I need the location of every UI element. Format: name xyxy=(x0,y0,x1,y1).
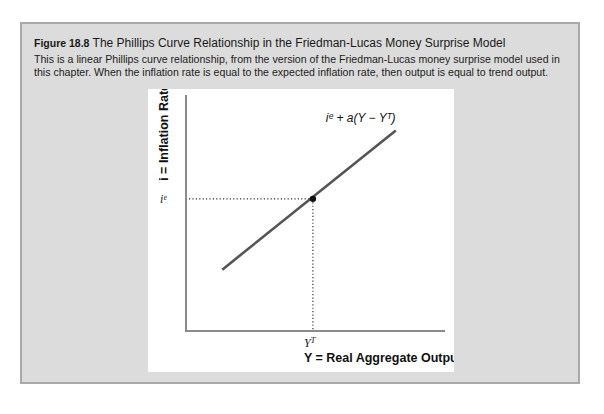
y-tick-label: iᵉ xyxy=(160,192,167,206)
x-axis-label: Y = Real Aggregate Output xyxy=(304,351,454,365)
figure-number: Figure 18.8 xyxy=(34,37,89,49)
figure-frame: Figure 18.8 The Phillips Curve Relations… xyxy=(20,22,580,384)
chart-panel: iᵉ + a(Y − Yᵀ) iᵉ YT Y = Real Aggregate … xyxy=(148,89,454,372)
phillips-curve-line xyxy=(222,130,396,269)
y-axis-label: i = Inflation Rate xyxy=(157,89,171,181)
x-tick-label: YT xyxy=(304,335,317,350)
equilibrium-point xyxy=(310,196,316,202)
phillips-curve-chart: iᵉ + a(Y − Yᵀ) iᵉ YT Y = Real Aggregate … xyxy=(148,89,454,372)
curve-label: iᵉ + a(Y − Yᵀ) xyxy=(326,111,396,125)
figure-title: The Phillips Curve Relationship in the F… xyxy=(93,36,506,50)
figure-description: This is a linear Phillips curve relation… xyxy=(34,53,574,79)
figure-caption: Figure 18.8 The Phillips Curve Relations… xyxy=(34,37,574,79)
